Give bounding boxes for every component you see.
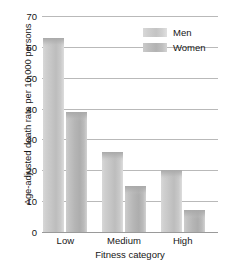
bar-chart: Age-adjusted death rate per 10,000 perso… xyxy=(0,0,226,263)
x-axis-tick-label-high: High xyxy=(173,235,193,246)
legend-item-women: Women xyxy=(143,41,206,54)
bar-top-shading xyxy=(125,186,146,195)
gridline xyxy=(42,232,218,233)
y-axis-tick-label: 40 xyxy=(26,103,37,114)
legend-item-men: Men xyxy=(143,26,206,39)
y-axis-tick-label: 70 xyxy=(26,11,37,22)
bar-high-men xyxy=(161,170,182,232)
bar-medium-men xyxy=(102,152,123,232)
legend-label-men: Men xyxy=(173,27,191,38)
y-axis-tick-label: 60 xyxy=(26,41,37,52)
y-axis-tick-label: 10 xyxy=(26,196,37,207)
bar-top-shading xyxy=(161,170,182,179)
bar-low-women xyxy=(66,112,87,232)
legend-swatch-women xyxy=(143,43,167,52)
y-axis-tick-labels: 010203040506070 xyxy=(0,0,42,263)
x-axis-title: Fitness category xyxy=(42,249,218,260)
bar-medium-women xyxy=(125,186,146,232)
x-axis-tick-label-medium: Medium xyxy=(107,235,141,246)
bar-top-shading xyxy=(43,38,64,47)
y-axis-tick-label: 20 xyxy=(26,165,37,176)
x-axis-tick-labels: LowMediumHigh xyxy=(42,235,218,249)
y-axis-tick-label: 50 xyxy=(26,72,37,83)
bar-top-shading xyxy=(66,112,87,121)
legend: MenWomen xyxy=(143,26,206,56)
y-axis-tick-label: 0 xyxy=(32,227,37,238)
bar-top-shading xyxy=(184,210,205,219)
legend-swatch-men xyxy=(143,28,167,37)
legend-label-women: Women xyxy=(173,42,206,53)
bar-high-women xyxy=(184,210,205,232)
x-axis-tick-label-low: Low xyxy=(57,235,74,246)
bar-low-men xyxy=(43,38,64,232)
y-axis-tick-label: 30 xyxy=(26,134,37,145)
bar-top-shading xyxy=(102,152,123,161)
